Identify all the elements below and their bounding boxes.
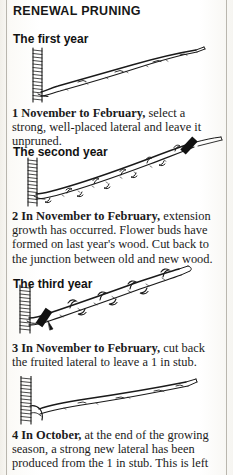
first-year-pruning-diagram: [20, 46, 225, 106]
caption-step-3: 3 In November to February, cut back the …: [12, 341, 222, 369]
caption-step-2-lead: 2 In November to February,: [12, 209, 160, 223]
caption-step-4: 4 In October, at the end of the growing …: [12, 428, 222, 471]
heading-first-year: The first year: [13, 32, 88, 46]
caption-step-1-lead: 1 November to February,: [12, 106, 145, 120]
fourth-stage-pruning-diagram: [16, 376, 216, 428]
book-page: RENEWAL PRUNING The first year: [0, 0, 233, 475]
caption-step-3-lead: 3 In November to February,: [12, 341, 160, 355]
heading-second-year: The second year: [13, 145, 108, 159]
caption-step-2: 2 In November to February, extension gro…: [12, 209, 222, 266]
third-year-pruning-diagram: [16, 265, 211, 337]
heading-third-year: The third year: [13, 277, 92, 291]
page-content: RENEWAL PRUNING The first year: [0, 0, 233, 475]
page-title: RENEWAL PRUNING: [13, 4, 141, 18]
caption-step-4-lead: 4 In October,: [12, 428, 81, 442]
caption-step-1: 1 November to February, select a strong,…: [12, 106, 222, 149]
